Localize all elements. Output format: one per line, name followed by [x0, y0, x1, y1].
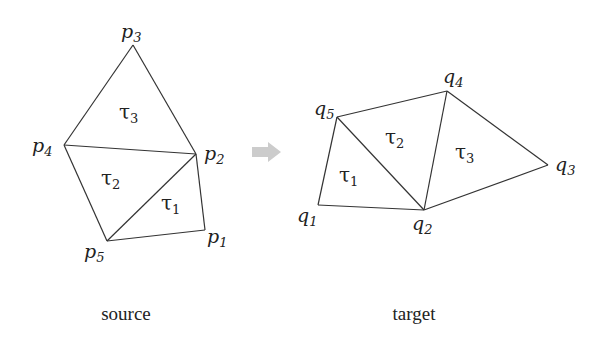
- triangle-label-tau2-source: τ2: [101, 166, 120, 192]
- edge-q5-q4: [337, 91, 447, 117]
- arrow-right-icon: [252, 142, 281, 162]
- triangle-label-tau1-source: τ1: [161, 191, 180, 217]
- vertex-label-p3: p3: [121, 20, 141, 45]
- edge-q1-q2: [318, 205, 424, 210]
- vertex-label-p5: p5: [84, 240, 104, 265]
- edge-p3-p2: [133, 45, 196, 154]
- edge-q4-q2: [424, 91, 447, 210]
- source-mesh: [64, 45, 205, 241]
- triangle-label-tau3-target: τ3: [455, 140, 474, 166]
- target-mesh: [318, 91, 548, 210]
- triangle-label-tau2-target: τ2: [385, 125, 404, 151]
- triangle-label-tau1-target: τ1: [339, 163, 358, 189]
- vertex-label-p4: p4: [32, 134, 52, 159]
- edge-q2-q3: [424, 165, 548, 210]
- vertex-label-q3: q3: [555, 153, 575, 178]
- source-caption: source: [101, 303, 151, 324]
- vertex-label-p2: p2: [204, 142, 224, 167]
- triangle-label-tau3-source: τ3: [119, 100, 138, 126]
- edge-p2-p1: [196, 154, 205, 230]
- vertex-label-q2: q2: [412, 212, 432, 237]
- edge-p5-p2: [107, 154, 196, 241]
- mesh-mapping-diagram: p3 p4 p2 p1 p5 τ3 τ2 τ1 q4 q5 q3 q1 q2 τ…: [0, 0, 605, 348]
- edge-p3-p4: [64, 45, 133, 145]
- vertex-label-q4: q4: [443, 65, 463, 90]
- edge-p5-p1: [107, 230, 205, 241]
- vertex-label-q1: q1: [297, 204, 317, 229]
- edge-q5-q1: [318, 117, 337, 205]
- edge-p4-p2: [64, 145, 196, 154]
- target-caption: target: [393, 303, 437, 324]
- vertex-label-p1: p1: [207, 225, 227, 250]
- vertex-label-q5: q5: [314, 97, 334, 122]
- edge-p4-p5: [64, 145, 107, 241]
